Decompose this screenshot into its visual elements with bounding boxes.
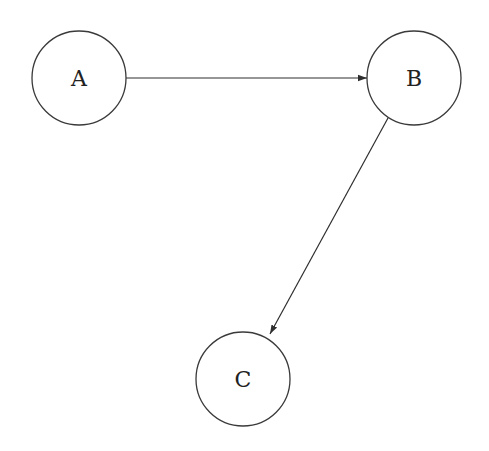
edge-line: [270, 118, 388, 334]
node-label: A: [70, 66, 88, 91]
node-label: C: [235, 367, 252, 392]
node-c[interactable]: C: [196, 332, 290, 426]
node-b[interactable]: B: [367, 31, 461, 125]
graph-canvas: A B C: [0, 0, 489, 451]
node-label: B: [406, 66, 422, 91]
node-a[interactable]: A: [32, 31, 126, 125]
edge-b-to-c: [270, 118, 388, 334]
